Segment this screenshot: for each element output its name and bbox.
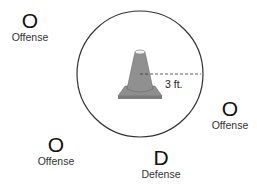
radius-label: 3 ft. bbox=[165, 78, 183, 90]
traffic-cone-icon bbox=[118, 50, 162, 99]
offense-marker: O bbox=[0, 11, 60, 31]
defense-marker: D bbox=[131, 148, 191, 168]
offense-player-bottom-left: O Offense bbox=[26, 135, 86, 167]
defense-label: Defense bbox=[131, 168, 191, 180]
defense-player: D Defense bbox=[131, 148, 191, 180]
offense-label: Offense bbox=[200, 119, 257, 131]
drill-diagram: 3 ft. O Offense O Offense O Offense D De… bbox=[0, 0, 257, 188]
offense-player-right: O Offense bbox=[200, 99, 257, 131]
offense-label: Offense bbox=[26, 155, 86, 167]
offense-marker: O bbox=[200, 99, 257, 119]
offense-player-top-left: O Offense bbox=[0, 11, 60, 43]
offense-marker: O bbox=[26, 135, 86, 155]
offense-label: Offense bbox=[0, 31, 60, 43]
